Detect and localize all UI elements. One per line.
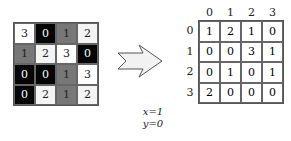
matrix-cell: 0 bbox=[241, 83, 262, 104]
input-cell: 0 bbox=[35, 23, 56, 44]
offset-y-label: y=0 bbox=[138, 118, 168, 129]
offset-x-label: x=1 bbox=[138, 106, 168, 117]
input-cell: 0 bbox=[14, 64, 35, 85]
input-cell: 1 bbox=[14, 44, 35, 65]
column-header: 1 bbox=[220, 6, 241, 19]
input-cell: 2 bbox=[77, 23, 98, 44]
matrix-cell: 0 bbox=[262, 83, 283, 104]
input-cell: 3 bbox=[77, 64, 98, 85]
matrix-cell: 1 bbox=[262, 62, 283, 83]
matrix-cell: 2 bbox=[220, 21, 241, 42]
input-cell: 0 bbox=[77, 44, 98, 65]
input-cell: 0 bbox=[14, 85, 35, 106]
input-cell: 3 bbox=[56, 44, 77, 65]
matrix-cell: 3 bbox=[241, 42, 262, 63]
matrix-cell: 0 bbox=[220, 42, 241, 63]
column-header: 0 bbox=[199, 6, 220, 19]
matrix-cell: 0 bbox=[262, 21, 283, 42]
matrix-cell: 1 bbox=[199, 21, 220, 42]
matrix-cell: 0 bbox=[199, 42, 220, 63]
row-header: 3 bbox=[184, 86, 196, 99]
input-cell: 1 bbox=[56, 23, 77, 44]
input-cell: 3 bbox=[14, 23, 35, 44]
co-occurrence-matrix: 1210003101012000 bbox=[198, 20, 284, 104]
input-cell: 0 bbox=[35, 64, 56, 85]
matrix-cell: 1 bbox=[241, 21, 262, 42]
matrix-cell: 1 bbox=[220, 62, 241, 83]
input-cell: 2 bbox=[77, 85, 98, 106]
input-cell: 2 bbox=[35, 85, 56, 106]
input-cell: 1 bbox=[56, 64, 77, 85]
row-header: 0 bbox=[184, 24, 196, 37]
matrix-cell: 1 bbox=[262, 42, 283, 63]
row-header: 1 bbox=[184, 45, 196, 58]
input-image-grid: 3012123000130212 bbox=[13, 22, 99, 106]
arrow-right-icon bbox=[117, 44, 163, 78]
column-header: 2 bbox=[241, 6, 262, 19]
matrix-cell: 0 bbox=[220, 83, 241, 104]
row-header: 2 bbox=[184, 65, 196, 78]
input-cell: 2 bbox=[35, 44, 56, 65]
column-header: 3 bbox=[262, 6, 283, 19]
matrix-cell: 0 bbox=[199, 62, 220, 83]
matrix-cell: 0 bbox=[241, 62, 262, 83]
input-cell: 1 bbox=[56, 85, 77, 106]
matrix-cell: 2 bbox=[199, 83, 220, 104]
